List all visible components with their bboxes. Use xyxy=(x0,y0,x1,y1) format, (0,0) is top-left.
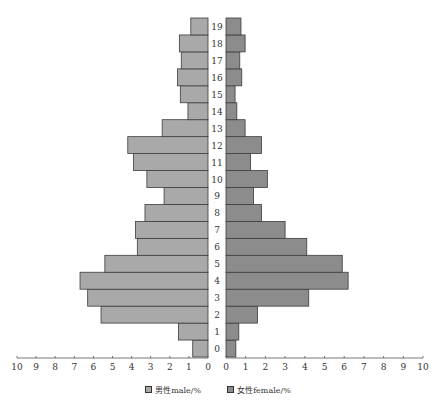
bar-male-11 xyxy=(134,154,208,171)
category-label: 18 xyxy=(211,39,223,49)
population-pyramid-chart: 012345678910111213141516171819 109876543… xyxy=(0,0,436,406)
category-label: 9 xyxy=(214,191,220,201)
x-tick-label: 3 xyxy=(148,362,154,372)
x-tick-label: 7 xyxy=(361,362,367,372)
bar-male-9 xyxy=(164,188,208,205)
bar-male-4 xyxy=(80,272,208,289)
category-label: 19 xyxy=(211,22,223,32)
bar-male-15 xyxy=(180,86,208,103)
bar-male-5 xyxy=(105,255,208,272)
bar-male-18 xyxy=(179,35,208,52)
x-tick-label: 9 xyxy=(400,362,406,372)
bar-female-6 xyxy=(226,238,307,255)
category-label: 14 xyxy=(211,107,223,117)
bar-female-2 xyxy=(226,306,258,323)
category-label: 11 xyxy=(211,158,222,168)
bar-male-17 xyxy=(181,52,208,69)
bar-female-10 xyxy=(226,171,267,188)
bar-male-2 xyxy=(101,306,208,323)
x-tick-label: 10 xyxy=(11,362,23,372)
x-tick-label: 6 xyxy=(91,362,97,372)
bar-female-14 xyxy=(226,103,237,120)
bar-male-19 xyxy=(191,18,208,35)
category-label: 5 xyxy=(214,259,220,269)
category-label: 4 xyxy=(214,276,220,286)
legend-swatch-female xyxy=(227,386,234,393)
bars-group xyxy=(80,18,348,357)
x-tick-label: 4 xyxy=(302,362,308,372)
x-tick-label: 1 xyxy=(186,362,192,372)
x-tick-label: 8 xyxy=(52,362,58,372)
bar-male-1 xyxy=(178,323,208,340)
legend-item-male: 男性male/% xyxy=(145,384,201,395)
category-label: 13 xyxy=(211,124,223,134)
bar-male-6 xyxy=(137,238,208,255)
bar-male-0 xyxy=(193,340,208,357)
category-label: 8 xyxy=(214,208,220,218)
x-tick-label: 2 xyxy=(167,362,173,372)
legend-item-female: 女性female/% xyxy=(227,384,291,395)
bar-female-15 xyxy=(226,86,235,103)
x-tick-label: 4 xyxy=(129,362,135,372)
x-axes: 109876543210012345678910 xyxy=(11,356,429,372)
bar-male-10 xyxy=(147,171,208,188)
x-tick-label: 3 xyxy=(282,362,288,372)
category-labels: 012345678910111213141516171819 xyxy=(211,22,223,354)
x-tick-label: 0 xyxy=(223,362,229,372)
x-tick-label: 5 xyxy=(322,362,328,372)
category-label: 3 xyxy=(214,293,220,303)
category-label: 0 xyxy=(214,344,220,354)
x-tick-label: 2 xyxy=(263,362,269,372)
category-label: 2 xyxy=(214,310,220,320)
bar-female-19 xyxy=(226,18,241,35)
category-label: 17 xyxy=(211,56,223,66)
bar-male-13 xyxy=(162,120,208,137)
bar-female-1 xyxy=(226,323,239,340)
category-label: 15 xyxy=(211,90,223,100)
category-label: 7 xyxy=(214,225,220,235)
bar-female-12 xyxy=(226,137,261,154)
bar-male-3 xyxy=(88,289,208,306)
category-label: 12 xyxy=(211,141,222,151)
bar-female-9 xyxy=(226,188,254,205)
x-tick-label: 5 xyxy=(110,362,116,372)
category-label: 6 xyxy=(214,242,220,252)
x-tick-label: 8 xyxy=(381,362,387,372)
x-tick-label: 9 xyxy=(33,362,39,372)
x-tick-label: 7 xyxy=(71,362,77,372)
bar-female-4 xyxy=(226,272,348,289)
x-tick-label: 6 xyxy=(341,362,347,372)
legend-label-male: 男性male/% xyxy=(155,384,201,395)
legend-swatch-male xyxy=(145,386,152,393)
category-label: 1 xyxy=(214,327,220,337)
bar-female-5 xyxy=(226,255,342,272)
legend: 男性male/% 女性female/% xyxy=(0,384,436,395)
bar-male-16 xyxy=(177,69,208,86)
category-label: 16 xyxy=(211,73,223,83)
bar-male-14 xyxy=(188,103,208,120)
bar-female-16 xyxy=(226,69,242,86)
bar-female-11 xyxy=(226,154,251,171)
bar-female-7 xyxy=(226,221,285,238)
x-tick-label: 0 xyxy=(205,362,211,372)
bar-female-13 xyxy=(226,120,245,137)
category-label: 10 xyxy=(211,175,223,185)
bar-male-12 xyxy=(128,137,208,154)
legend-label-female: 女性female/% xyxy=(237,384,291,395)
x-tick-label: 1 xyxy=(243,362,249,372)
bar-male-8 xyxy=(145,204,208,221)
bar-female-18 xyxy=(226,35,245,52)
bar-female-17 xyxy=(226,52,240,69)
bar-female-3 xyxy=(226,289,309,306)
x-tick-label: 10 xyxy=(417,362,429,372)
bar-male-7 xyxy=(135,221,208,238)
bar-female-0 xyxy=(226,340,236,357)
bar-female-8 xyxy=(226,204,261,221)
